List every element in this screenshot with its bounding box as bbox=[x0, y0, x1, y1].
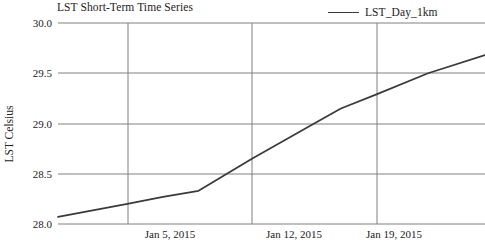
data-series-line-lst-day-1km bbox=[58, 55, 485, 217]
horizontal-gridlines bbox=[58, 23, 485, 174]
plot-area bbox=[0, 0, 485, 250]
chart-container: LST Short-Term Time Series LST_Day_1km L… bbox=[0, 0, 485, 250]
